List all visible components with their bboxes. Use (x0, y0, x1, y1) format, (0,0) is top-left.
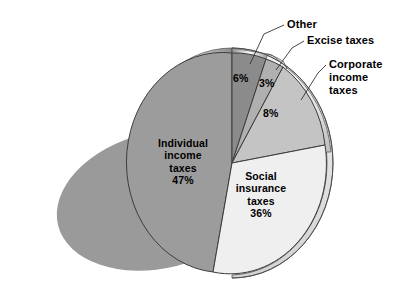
callout-label-corporate-line-1: Corporate (329, 58, 382, 70)
callout-label-other: Other (287, 18, 317, 31)
callout-label-excise-taxes-text: Excise taxes (307, 34, 374, 46)
callout-label-excise-taxes: Excise taxes (307, 34, 374, 47)
callout-label-corporate-line-3: taxes (329, 84, 382, 97)
callout-label-corporate-line-2: income (329, 71, 382, 84)
slice-label-social-percent: 36% (215, 207, 307, 219)
pie-chart-figure: Other Excise taxes Corporate income taxe… (0, 0, 402, 292)
slice-label-social-line-1: Social (245, 170, 277, 182)
pct-label-corporate-income-taxes: 8% (263, 107, 278, 119)
pct-label-excise-taxes-text: 3% (259, 77, 274, 89)
slice-label-social-insurance-taxes: Social insurance taxes 36% (215, 170, 307, 220)
slice-label-social-line-3: taxes (215, 195, 307, 207)
pct-label-excise-taxes: 3% (259, 77, 274, 89)
slice-label-individual-line-1: Individual (158, 137, 208, 149)
pct-label-other: 6% (233, 72, 248, 84)
slice-label-individual-line-2: income (138, 149, 228, 161)
callout-label-corporate-income-taxes: Corporate income taxes (329, 58, 382, 97)
pct-label-corporate-text: 8% (263, 107, 278, 119)
slice-label-social-line-2: insurance (215, 182, 307, 194)
callout-label-other-text: Other (287, 18, 317, 30)
pct-label-other-text: 6% (233, 72, 248, 84)
